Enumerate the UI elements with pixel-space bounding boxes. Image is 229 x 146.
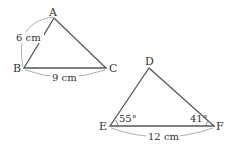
vertex-e: E — [99, 120, 107, 133]
triangle-abc: A B C 6 cm 9 cm — [13, 6, 117, 83]
triangle-def: D E F 55° 41° 12 cm — [99, 55, 224, 142]
geometry-diagram: A B C 6 cm 9 cm D E F 55° 41° 12 cm — [0, 0, 229, 146]
vertex-b: B — [13, 62, 21, 75]
vertex-d: D — [145, 55, 154, 68]
vertex-c: C — [109, 62, 117, 75]
side-ab-length: 6 cm — [16, 32, 41, 43]
angle-f-value: 41° — [190, 113, 208, 124]
vertex-f: F — [216, 120, 224, 133]
side-bc-length: 9 cm — [52, 72, 77, 83]
vertex-a: A — [48, 6, 58, 19]
angle-e-value: 55° — [119, 113, 137, 124]
side-ef-length: 12 cm — [148, 131, 180, 142]
angle-arc-e — [115, 119, 119, 126]
